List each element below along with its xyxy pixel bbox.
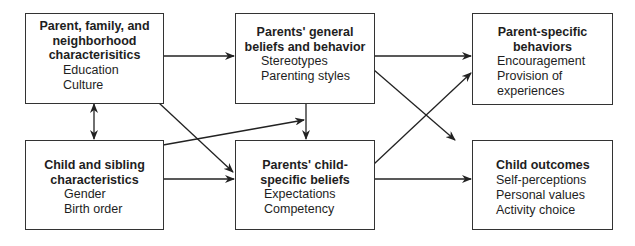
title-line: Parent, family, and (26, 19, 163, 34)
title-line: behaviors (473, 40, 612, 55)
title-line: specific beliefs (236, 173, 374, 188)
box-title: Child outcomes (473, 146, 612, 173)
box-title: Parent, family, and neighborhood charact… (26, 19, 163, 63)
item-self-perceptions: Self-perceptions (496, 173, 612, 188)
box-title: Parent-specific behaviors (473, 19, 612, 54)
item-gender: Gender (64, 187, 163, 202)
item-experiences: experiences (497, 84, 612, 99)
item-provision-of: Provision of (497, 69, 612, 84)
box-child-sibling-characteristics: Child and sibling characteristics Gender… (25, 140, 164, 230)
box-items: Expectations Competency (236, 187, 374, 217)
item-expectations: Expectations (264, 187, 374, 202)
item-competency: Competency (264, 202, 374, 217)
title-line: beliefs and behavior (236, 40, 374, 55)
item-birth-order: Birth order (64, 202, 163, 217)
title-line: Parents' child- (236, 158, 374, 173)
box-title: Parents' general beliefs and behavior (236, 19, 374, 54)
item-education: Education (63, 63, 163, 78)
title-line: characterisitics (26, 48, 163, 63)
box-parent-family-characteristics: Parent, family, and neighborhood charact… (25, 13, 164, 104)
title-line: Child and sibling (26, 158, 163, 173)
item-encouragement: Encouragement (497, 54, 612, 69)
box-title: Child and sibling characteristics (26, 146, 163, 187)
edge-parent-family-to-child-beliefs (159, 103, 233, 172)
box-items: Gender Birth order (26, 187, 163, 217)
edge-child-beliefs-to-parent-behaviors (374, 73, 471, 164)
title-line: Parent-specific (473, 25, 612, 40)
item-stereotypes: Stereotypes (261, 54, 374, 69)
box-items: Education Culture (26, 63, 163, 93)
title-line: Child outcomes (496, 158, 612, 173)
box-parents-child-specific-beliefs: Parents' child- specific beliefs Expecta… (235, 140, 375, 230)
title-line: Parents' general (236, 25, 374, 40)
box-parents-general-beliefs: Parents' general beliefs and behavior St… (235, 13, 375, 104)
box-items: Stereotypes Parenting styles (236, 54, 374, 84)
box-parent-specific-behaviors: Parent-specific behaviors Encouragement … (472, 13, 613, 105)
title-line: characteristics (26, 173, 163, 188)
item-personal-values: Personal values (496, 188, 612, 203)
box-title: Parents' child- specific beliefs (236, 146, 374, 187)
title-line: neighborhood (26, 34, 163, 49)
box-items: Self-perceptions Personal values Activit… (473, 173, 612, 218)
item-parenting-styles: Parenting styles (261, 69, 374, 84)
box-child-outcomes: Child outcomes Self-perceptions Personal… (472, 140, 613, 230)
item-culture: Culture (63, 78, 163, 93)
box-items: Encouragement Provision of experiences (473, 54, 612, 99)
item-activity-choice: Activity choice (496, 203, 612, 218)
edge-general-to-child-outcomes (374, 70, 455, 140)
